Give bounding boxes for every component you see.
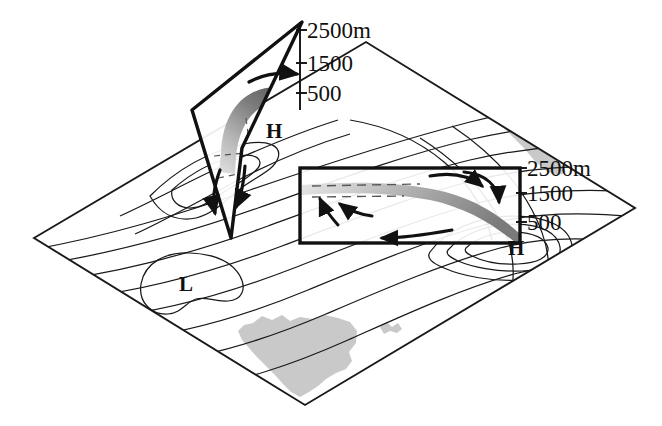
left-axis-label-2500: 2500m <box>307 18 371 43</box>
high-label-right: H <box>508 236 524 260</box>
right-axis-label-2500: 2500m <box>527 156 591 181</box>
right-axis-label-1500: 1500 <box>527 181 573 206</box>
right-axis-label-500: 500 <box>527 210 562 235</box>
left-axis-label-500: 500 <box>307 81 342 106</box>
figure-root: H 2500m 1500 500 <box>0 0 662 426</box>
left-axis-label-1500: 1500 <box>307 51 353 76</box>
high-label-left: H <box>266 119 282 143</box>
low-label: L <box>179 272 193 296</box>
airflow-schematic-diagram: H 2500m 1500 500 <box>0 0 662 426</box>
